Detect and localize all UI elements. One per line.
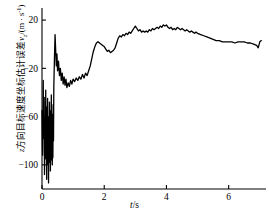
y-tick-label: −60 [23,112,38,122]
y-axis-tick-labels: 20−20−60−100 [18,15,38,170]
x-axis-ticks [42,185,229,189]
chart-figure: z方向目标速度坐标估计误差vz/(m · s-1) t/s 20−20−60−1… [0,0,269,217]
x-tick-label: 0 [40,192,45,202]
plot-canvas: 20−20−60−100 0246 [0,0,269,217]
axis-lines [42,8,266,189]
x-tick-label: 2 [102,192,107,202]
x-axis-tick-labels: 0246 [40,192,232,202]
y-tick-label: −20 [23,64,38,74]
x-tick-label: 4 [164,192,169,202]
x-tick-label: 6 [226,192,231,202]
data-series-line [42,25,261,183]
y-tick-label: −100 [18,160,38,170]
y-tick-label: 20 [29,15,39,25]
